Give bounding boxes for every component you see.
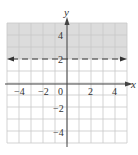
y-axis-label: y <box>63 6 69 18</box>
x-axis-label: x <box>130 78 136 90</box>
y-axis-arrow-icon <box>65 17 70 25</box>
y-tick-label: 4 <box>58 30 63 41</box>
inequality-graph: y x −4 −2 0 2 4 4 2 −2 −4 <box>0 0 138 155</box>
x-tick-label: 4 <box>112 86 117 97</box>
x-tick-label: 0 <box>58 86 63 97</box>
x-tick-label: −2 <box>38 86 49 97</box>
x-tick-label: 2 <box>88 86 93 97</box>
y-tick-label: −2 <box>53 103 64 114</box>
y-tick-label: −4 <box>53 127 64 138</box>
x-tick-label: −4 <box>14 86 25 97</box>
y-tick-label: 2 <box>58 54 63 65</box>
